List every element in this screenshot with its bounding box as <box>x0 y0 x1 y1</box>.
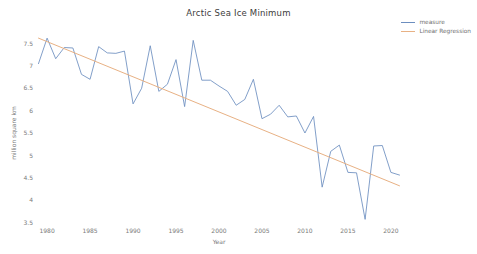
y-axis-tick-label: 3.5 <box>23 219 33 226</box>
x-axis-title: Year <box>212 238 226 245</box>
chart-container: Arctic Sea Ice Minimum 3.544.555.566.577… <box>0 0 477 254</box>
legend-item-measure[interactable]: measure <box>401 20 471 26</box>
x-axis-tick-label: 1980 <box>39 227 54 234</box>
x-axis-tick-label: 2010 <box>297 227 312 234</box>
series-line-measure <box>39 38 400 219</box>
y-axis-tick-label: 7 <box>29 62 33 69</box>
x-axis-tick-label: 2000 <box>211 227 226 234</box>
legend-swatch-icon <box>401 31 415 32</box>
y-axis-tick-label: 7.5 <box>23 40 33 47</box>
x-axis-tick-label: 2005 <box>254 227 269 234</box>
y-axis-tick-label: 5.5 <box>23 129 33 136</box>
y-axis-tick-label: 5 <box>29 152 33 159</box>
y-axis-title: million square km <box>10 106 18 160</box>
legend-swatch-icon <box>401 22 415 23</box>
x-axis-tick-label: 2020 <box>383 227 398 234</box>
legend-label: measure <box>419 20 444 26</box>
x-axis-tick-label: 2015 <box>340 227 355 234</box>
legend-label: Linear Regression <box>419 29 471 35</box>
legend-item-linear-regression[interactable]: Linear Regression <box>401 29 471 35</box>
plot-area: 3.544.555.566.577.5198019851990199520002… <box>0 0 477 254</box>
y-axis-tick-label: 4 <box>29 196 33 203</box>
x-axis-tick-label: 1995 <box>168 227 183 234</box>
chart-legend: measureLinear Regression <box>401 20 471 35</box>
y-axis-tick-label: 6.5 <box>23 84 33 91</box>
y-axis-tick-label: 6 <box>29 107 33 114</box>
series-line-linear-regression <box>39 38 400 186</box>
x-axis-tick-label: 1985 <box>82 227 97 234</box>
x-axis-tick-label: 1990 <box>125 227 140 234</box>
y-axis-tick-label: 4.5 <box>23 174 33 181</box>
